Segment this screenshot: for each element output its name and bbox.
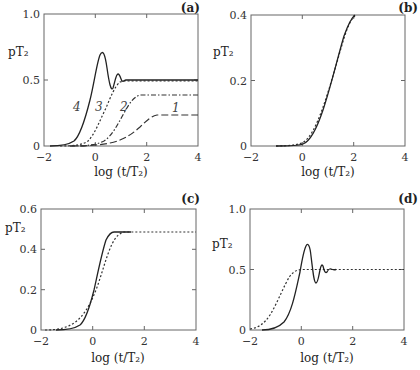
y-tick-label: 0.6 xyxy=(20,203,38,216)
panel-label: (a) xyxy=(181,1,200,15)
x-tick-label: 0 xyxy=(92,151,99,164)
x-tick-label: 2 xyxy=(350,151,357,164)
exact-curve xyxy=(262,244,336,330)
y-tick-label: 0 xyxy=(239,324,246,337)
x-axis-label: log (t/T₂) xyxy=(300,351,354,365)
x-tick-label: 2 xyxy=(141,335,148,348)
x-tick-label: 4 xyxy=(402,151,409,164)
y-axis-label: pT₂ xyxy=(212,237,233,251)
y-tick-label: 0.4 xyxy=(20,243,38,256)
y-tick-label: 0 xyxy=(33,140,40,153)
approx-curve xyxy=(276,16,355,146)
figure: −2 0 2 4 0 0.5 1.0 pT₂ log (t/T₂) (a) 4 … xyxy=(0,0,420,370)
x-tick-label: 0 xyxy=(298,335,305,348)
x-tick-label: 4 xyxy=(193,335,200,348)
panel-label: (b) xyxy=(398,1,418,15)
y-axis-label: pT₂ xyxy=(8,45,29,59)
approx-curve xyxy=(45,232,196,330)
panel-label: (c) xyxy=(181,192,200,206)
plot-frame xyxy=(41,209,196,330)
y-tick-label: 0.2 xyxy=(20,284,38,297)
panel-b: −2 0 2 4 0 0.2 0.4 pT₂ log (t/T₂) (b) xyxy=(213,1,418,179)
x-axis-label: log (t/T₂) xyxy=(301,165,355,179)
y-tick-label: 0.5 xyxy=(229,264,247,277)
y-tick-label: 0.2 xyxy=(230,75,248,88)
y-axis-label: pT₂ xyxy=(5,221,26,235)
y-tick-label: 1.0 xyxy=(229,203,247,216)
x-tick-label: 2 xyxy=(143,151,150,164)
panel-a: −2 0 2 4 0 0.5 1.0 pT₂ log (t/T₂) (a) 4 … xyxy=(8,1,202,179)
curve-label-4: 4 xyxy=(72,100,81,114)
x-tick-label: 0 xyxy=(299,151,306,164)
y-axis-label: pT₂ xyxy=(213,45,234,59)
x-axis-label: log (t/T₂) xyxy=(91,351,145,365)
curve-label-3: 3 xyxy=(95,100,103,114)
panel-c: −2 0 2 4 0 0.2 0.4 0.6 pT₂ log (t/T₂) (c… xyxy=(5,192,200,365)
x-tick-label: 4 xyxy=(401,335,408,348)
curve-1 xyxy=(70,115,198,146)
curve-label-2: 2 xyxy=(119,100,128,114)
curve-label-1: 1 xyxy=(172,101,180,115)
y-tick-label: 0.5 xyxy=(23,74,41,87)
panel-label: (d) xyxy=(398,192,418,206)
y-tick-label: 1.0 xyxy=(23,8,41,21)
y-tick-label: 0 xyxy=(240,140,247,153)
x-axis-label: log (t/T₂) xyxy=(94,165,148,179)
exact-curve xyxy=(56,232,131,330)
approx-curve xyxy=(250,270,404,330)
x-tick-label: 0 xyxy=(89,335,96,348)
y-tick-label: 0.4 xyxy=(230,9,248,22)
plot-frame xyxy=(251,15,405,146)
x-tick-label: 2 xyxy=(349,335,356,348)
x-tick-label: 4 xyxy=(195,151,202,164)
y-tick-label: 0 xyxy=(30,324,37,337)
panel-d: −2 0 2 4 0 0.5 1.0 pT₂ log (t/T₂) (d) xyxy=(212,192,418,365)
